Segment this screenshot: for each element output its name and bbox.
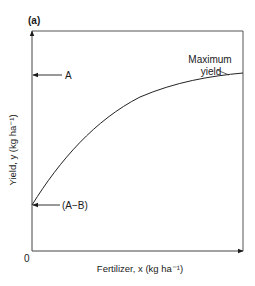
y-axis-label: Yield, y (kg ha⁻¹) <box>7 114 18 185</box>
yield-response-chart: (a) A (A−B) Maximum yield 0 Fertilizer, … <box>0 0 255 286</box>
a-minus-b-label: (A−B) <box>62 200 88 211</box>
yield-curve <box>32 73 243 205</box>
panel-label: (a) <box>28 15 40 26</box>
origin-label: 0 <box>24 253 30 264</box>
max-yield-label-line1: Maximum <box>188 54 231 65</box>
max-yield-label-line2: yield <box>201 66 222 77</box>
x-axis-label: Fertilizer, x (kg ha⁻¹) <box>97 263 183 274</box>
a-label: A <box>65 70 72 81</box>
